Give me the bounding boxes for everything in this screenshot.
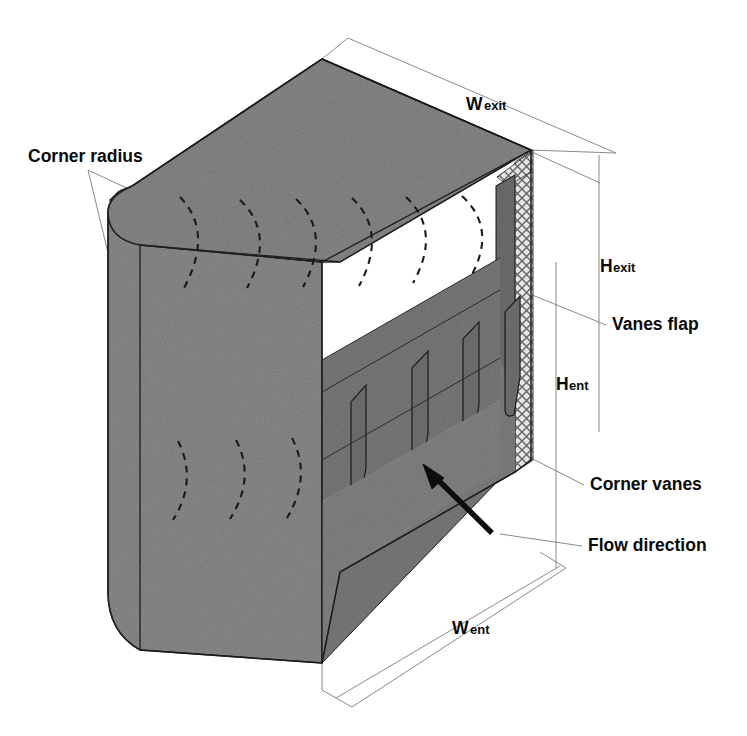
h-exit-base: H [600, 256, 613, 276]
h-ent-label: H ent [556, 374, 589, 394]
diagram-root: Corner radius W exit H exit Vanes flap H… [0, 0, 747, 736]
w-exit-base: W [466, 94, 483, 114]
flow-direction-label: Flow direction [588, 535, 707, 555]
corner-vanes-label: Corner vanes [590, 474, 702, 494]
leader-flow-direction [500, 534, 582, 546]
vanes-flap-label: Vanes flap [612, 314, 699, 334]
w-exit-subscript: exit [484, 98, 507, 113]
h-ent-base: H [556, 374, 569, 394]
duct-elbow-isometric-figure: Corner radius W exit H exit Vanes flap H… [0, 0, 747, 736]
top-arc-6 [462, 196, 482, 278]
corner-radius-label: Corner radius [28, 146, 143, 166]
leader-corner-radius-lower [88, 170, 108, 253]
h-exit-label: H exit [600, 256, 636, 276]
duct-body [108, 59, 533, 663]
h-ent-subscript: ent [569, 378, 589, 393]
w-ent-subscript: ent [470, 622, 490, 637]
w-ent-base: W [452, 618, 469, 638]
h-exit-subscript: exit [613, 260, 636, 275]
